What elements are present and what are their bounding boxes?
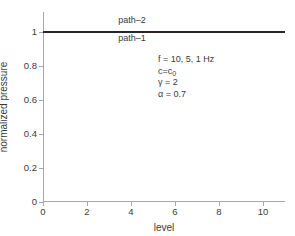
data-line-path-2 [175,31,197,33]
x-axis-title: level [43,222,285,233]
annotation-line: f = 10, 5, 1 Hz [158,54,214,66]
x-tick-label: 2 [84,207,89,217]
annotation-subscript: 0 [172,70,176,77]
data-series-layer [43,12,285,202]
curve-label: path–2 [118,15,146,25]
y-tick-label: 0 [32,197,37,207]
x-tick-label: 4 [128,207,133,217]
annotation-line: c=c0 [158,66,214,78]
plot-area: 00.20.40.60.81 0246810 path–2path–1 leve… [43,12,285,202]
x-tick-label: 6 [172,207,177,217]
x-tick-label: 8 [216,207,221,217]
y-axis-title: normalized pressure [0,62,9,153]
data-line-path-2 [241,31,263,33]
y-tick-label: 0.8 [24,61,37,71]
x-tick-label: 0 [40,207,45,217]
annotation-line: γ = 2 [158,77,214,89]
data-line-path-2 [43,31,65,33]
x-tick-label: 10 [258,207,269,217]
curve-label: path–1 [118,33,146,43]
y-tick-label: 1 [32,27,37,37]
data-line-path-2 [65,31,87,33]
annotation-line: α = 0.7 [158,89,214,101]
y-tick-label: 0.2 [24,163,37,173]
parameter-annotation: f = 10, 5, 1 Hzc=c0γ = 2α = 0.7 [158,54,214,100]
chart-figure: 00.20.40.60.81 0246810 path–2path–1 leve… [0,0,295,236]
data-line-path-2 [263,31,285,33]
data-line-path-2 [219,31,241,33]
data-line-path-2 [87,31,109,33]
data-line-path-2 [197,31,219,33]
data-line-path-2 [153,31,175,33]
y-tick-label: 0.4 [24,129,37,139]
y-tick-label: 0.6 [24,95,37,105]
